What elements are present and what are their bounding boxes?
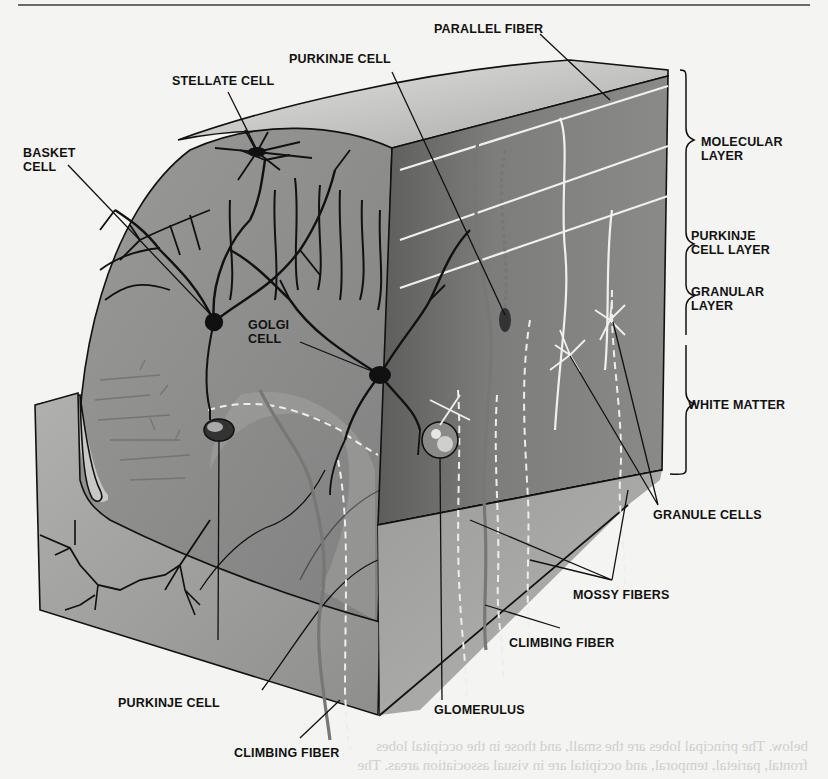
label-white-matter: WHITE MATTER xyxy=(688,398,785,412)
label-glomerulus: GLOMERULUS xyxy=(434,703,525,717)
label-purkinje-cell-layer: PURKINJE CELL LAYER xyxy=(691,229,770,257)
layer-brackets xyxy=(670,70,694,474)
label-climbing-fiber-bottom: CLIMBING FIBER xyxy=(234,746,340,760)
label-stellate-cell: STELLATE CELL xyxy=(172,74,274,88)
cerebellum-illustration xyxy=(0,0,828,779)
label-golgi-cell: GOLGI CELL xyxy=(248,318,289,346)
label-granular-layer: GRANULAR LAYER xyxy=(691,285,764,313)
label-basket-cell: BASKET CELL xyxy=(23,146,76,174)
label-parallel-fiber: PARALLEL FIBER xyxy=(434,22,543,36)
label-molecular-layer: MOLECULAR LAYER xyxy=(701,135,783,163)
label-mossy-fibers: MOSSY FIBERS xyxy=(573,588,670,602)
label-climbing-fiber-right: CLIMBING FIBER xyxy=(509,636,615,650)
label-granule-cells: GRANULE CELLS xyxy=(653,508,762,522)
label-purkinje-cell-bottom: PURKINJE CELL xyxy=(118,696,220,710)
purkinje-cell-soma-bottom xyxy=(204,419,234,441)
glomerulus xyxy=(422,422,458,458)
label-purkinje-cell-top: PURKINJE CELL xyxy=(289,52,391,66)
